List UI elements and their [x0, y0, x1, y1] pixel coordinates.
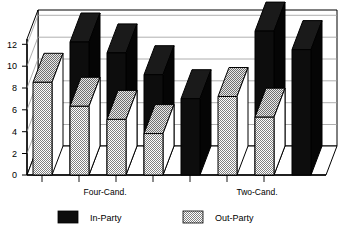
x-axis-label-four-cand: Four-Cand. [84, 187, 127, 197]
chart-canvas: 0 2 4 6 8 10 12 [0, 0, 348, 238]
bar-in-party-6 [292, 21, 322, 175]
legend-swatch-out-party [183, 211, 203, 223]
y-tick-label-6: 6 [12, 105, 17, 115]
legend-swatch-in-party [58, 211, 78, 223]
x-axis-label-two-cand: Two-Cand. [236, 187, 277, 197]
y-tick-label-10: 10 [7, 61, 17, 71]
y-tick-label-2: 2 [12, 149, 17, 159]
legend-label-out-party: Out-Party [215, 213, 254, 223]
y-tick-label-0: 0 [12, 170, 17, 180]
legend-label-in-party: In-Party [90, 213, 122, 223]
legend-item-out-party[interactable]: Out-Party [183, 211, 254, 223]
bar-out-party-1 [33, 53, 63, 175]
y-tick-label-4: 4 [12, 127, 17, 137]
bar-in-party-4 [181, 70, 211, 175]
y-tick-label-8: 8 [12, 83, 17, 93]
legend-item-in-party[interactable]: In-Party [58, 211, 122, 223]
y-tick-label-12: 12 [7, 40, 17, 50]
bar-out-party-5 [218, 68, 248, 176]
bar-chart: 0 2 4 6 8 10 12 [0, 0, 348, 238]
